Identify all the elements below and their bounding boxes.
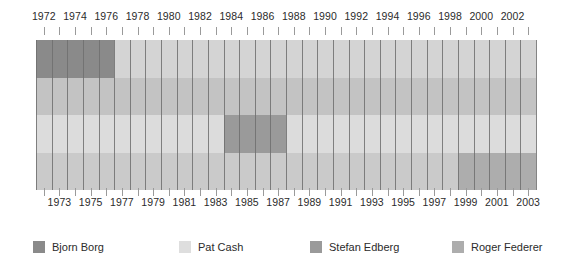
axis-tick-label: 1987 [266,196,290,208]
axis-tick [450,188,451,196]
axis-tick [278,188,279,196]
axis-tick-label: 1995 [391,196,415,208]
axis-tick [59,27,60,35]
heatmap-row [36,153,536,191]
axis-tick-label: 1990 [313,10,337,22]
axis-tick [247,27,248,35]
axis-tick [216,188,217,196]
legend-color-swatch [452,241,464,253]
axis-tick [497,27,498,35]
axis-tick [184,27,185,35]
axis-tick-label: 1997 [423,196,447,208]
legend-color-swatch [310,241,322,253]
axis-tick [200,27,201,35]
heatmap-row [36,78,536,116]
legend-label: Bjorn Borg [52,241,104,253]
axis-tick-label: 1982 [188,10,212,22]
axis-tick [169,188,170,196]
axis-tick-label: 2002 [501,10,525,22]
axis-tick [419,27,420,35]
axis-tick [75,27,76,35]
axis-tick [184,188,185,196]
bottom-axis-year-labels: 1973197519771979198119831985198719891991… [0,196,573,212]
axis-tick-label: 1983 [204,196,228,208]
heatmap-row [36,115,536,153]
top-axis-year-labels: 1972197419761978198019821984198619881990… [0,10,573,26]
axis-tick [513,188,514,196]
axis-tick-label: 1977 [110,196,134,208]
legend-item[interactable]: Stefan Edberg [310,238,399,256]
axis-tick [44,27,45,35]
gridline [536,40,537,190]
heatmap-highlight-block [224,115,287,153]
axis-tick [309,188,310,196]
axis-tick [247,188,248,196]
axis-tick [91,188,92,196]
axis-tick [325,27,326,35]
axis-tick-label: 1976 [94,10,118,22]
top-axis-ticks [0,27,573,35]
axis-tick [263,188,264,196]
heatmap-row [36,40,536,78]
legend-item[interactable]: Roger Federer [452,238,543,256]
axis-tick-label: 1992 [344,10,368,22]
axis-tick [122,27,123,35]
axis-tick-label: 1978 [126,10,150,22]
axis-tick [341,27,342,35]
chart-legend: Bjorn BorgPat CashStefan EdbergRoger Fed… [33,238,553,258]
axis-tick [294,188,295,196]
legend-item[interactable]: Pat Cash [179,238,243,256]
axis-tick [122,188,123,196]
axis-tick-label: 1975 [79,196,103,208]
axis-tick [341,188,342,196]
axis-tick-label: 1991 [329,196,353,208]
axis-tick [91,27,92,35]
legend-item[interactable]: Bjorn Borg [33,238,104,256]
bottom-axis-ticks [0,188,573,196]
axis-tick [309,27,310,35]
axis-tick [403,27,404,35]
axis-tick-label: 2001 [485,196,509,208]
axis-tick [106,188,107,196]
axis-tick [138,27,139,35]
heatmap-highlight-block [36,40,114,78]
axis-tick [528,188,529,196]
axis-tick [372,188,373,196]
axis-tick-label: 1989 [298,196,322,208]
axis-tick [513,27,514,35]
axis-tick [466,188,467,196]
legend-label: Stefan Edberg [329,241,399,253]
axis-tick-label: 1979 [141,196,165,208]
axis-tick [434,188,435,196]
axis-tick [59,188,60,196]
axis-tick [44,188,45,196]
axis-tick [434,27,435,35]
axis-tick-label: 1973 [48,196,72,208]
axis-tick [497,188,498,196]
axis-tick [528,27,529,35]
axis-tick-label: 2003 [516,196,540,208]
axis-tick [481,188,482,196]
axis-tick-label: 1996 [407,10,431,22]
axis-tick [153,27,154,35]
axis-tick-label: 1980 [157,10,181,22]
axis-tick [466,27,467,35]
axis-tick-label: 1993 [360,196,384,208]
axis-tick-label: 1988 [282,10,306,22]
heatmap-highlight-block [458,153,536,191]
axis-tick-label: 2000 [469,10,493,22]
legend-label: Pat Cash [198,241,243,253]
axis-tick [153,188,154,196]
axis-tick-label: 1998 [438,10,462,22]
axis-tick [325,188,326,196]
axis-tick [169,27,170,35]
heatmap-plot-area [36,40,536,190]
axis-tick [356,27,357,35]
axis-tick-label: 1985 [235,196,259,208]
axis-tick [294,27,295,35]
axis-tick [372,27,373,35]
axis-tick [388,27,389,35]
axis-tick-label: 1994 [376,10,400,22]
axis-tick [138,188,139,196]
axis-tick-label: 1999 [454,196,478,208]
